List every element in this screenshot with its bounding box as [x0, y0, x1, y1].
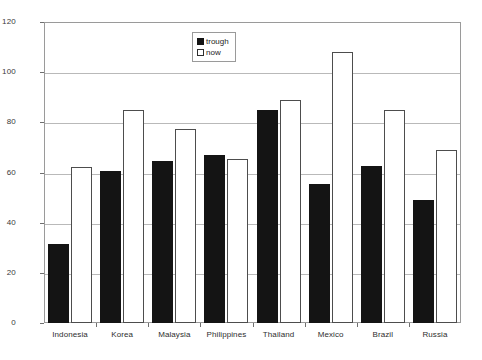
- x-tick-label-indonesia: Indonesia: [44, 330, 96, 339]
- bar-group-mexico: [305, 22, 357, 323]
- x-tick-mark-1: [96, 323, 97, 327]
- y-tick-label-80: 80: [0, 118, 16, 126]
- chart-legend: trough now: [192, 32, 236, 62]
- legend-entry-now: now: [197, 47, 229, 58]
- y-tick-label-60: 60: [0, 169, 16, 177]
- bar-russia-now: [436, 150, 457, 323]
- x-tick-label-philippines: Philippines: [200, 330, 252, 339]
- x-tick-label-mexico: Mexico: [305, 330, 357, 339]
- x-tick-mark-6: [357, 323, 358, 327]
- bar-malaysia-now: [175, 129, 196, 323]
- bar-group-indonesia: [44, 22, 96, 323]
- x-tick-mark-5: [305, 323, 306, 327]
- bar-group-thailand: [253, 22, 305, 323]
- bar-korea-now: [123, 110, 144, 323]
- y-tick-label-40: 40: [0, 219, 16, 227]
- x-tick-mark-3: [200, 323, 201, 327]
- bar-indonesia-now: [71, 167, 92, 323]
- bar-group-malaysia: [148, 22, 200, 323]
- bar-indonesia-trough: [48, 244, 69, 323]
- bar-mexico-trough: [309, 184, 330, 323]
- bar-malaysia-trough: [152, 161, 173, 323]
- y-tick-mark-0: [40, 323, 44, 324]
- legend-swatch-now-icon: [197, 49, 204, 56]
- x-tick-label-russia: Russia: [409, 330, 461, 339]
- x-tick-mark-7: [409, 323, 410, 327]
- x-tick-mark-2: [148, 323, 149, 327]
- bar-brazil-trough: [361, 166, 382, 323]
- bar-korea-trough: [100, 171, 121, 323]
- bar-mexico-now: [332, 52, 353, 323]
- x-tick-label-brazil: Brazil: [357, 330, 409, 339]
- bar-group-brazil: [357, 22, 409, 323]
- y-tick-label-120: 120: [0, 18, 16, 26]
- bar-group-russia: [409, 22, 461, 323]
- bar-chart: 020406080100120 IndonesiaKoreaMalaysiaPh…: [0, 0, 482, 360]
- bars-layer: [44, 22, 461, 323]
- y-tick-label-0: 0: [0, 319, 16, 327]
- legend-entry-trough: trough: [197, 36, 229, 47]
- legend-swatch-trough-icon: [197, 38, 204, 45]
- legend-label-trough: trough: [206, 37, 229, 46]
- legend-label-now: now: [206, 48, 221, 57]
- y-tick-label-100: 100: [0, 68, 16, 76]
- bar-thailand-now: [280, 100, 301, 323]
- bar-russia-trough: [413, 200, 434, 323]
- x-tick-label-malaysia: Malaysia: [148, 330, 200, 339]
- bar-philippines-now: [227, 159, 248, 323]
- bar-brazil-now: [384, 110, 405, 323]
- x-tick-label-thailand: Thailand: [253, 330, 305, 339]
- x-tick-label-korea: Korea: [96, 330, 148, 339]
- bar-philippines-trough: [204, 155, 225, 323]
- bar-thailand-trough: [257, 110, 278, 323]
- bar-group-korea: [96, 22, 148, 323]
- bar-group-philippines: [200, 22, 252, 323]
- y-tick-label-20: 20: [0, 269, 16, 277]
- x-tick-mark-4: [253, 323, 254, 327]
